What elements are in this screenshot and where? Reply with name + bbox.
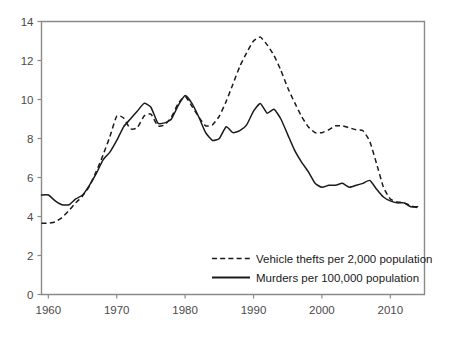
chart-legend: Vehicle thefts per 2,000 populationMurde…: [212, 253, 432, 284]
y-tick-label: 10: [21, 94, 34, 106]
line-chart: 02468101214 196019701980199020002010 Veh…: [0, 0, 450, 339]
y-tick-label: 12: [21, 55, 34, 67]
chart-figure: 02468101214 196019701980199020002010 Veh…: [0, 0, 450, 339]
y-tick-label: 14: [21, 16, 34, 28]
x-tick-label: 1960: [36, 304, 62, 316]
legend-label-vehicle-thefts: Vehicle thefts per 2,000 population: [256, 253, 432, 265]
y-tick-label: 2: [27, 250, 33, 262]
y-tick-label: 6: [27, 172, 33, 184]
x-tick-label: 1990: [241, 304, 267, 316]
x-tick-label: 1980: [172, 304, 198, 316]
x-axis-ticks: 196019701980199020002010: [36, 295, 404, 316]
chart-series: [42, 37, 418, 223]
x-tick-label: 1970: [104, 304, 130, 316]
y-tick-label: 4: [27, 211, 34, 223]
x-tick-label: 2010: [378, 304, 404, 316]
legend-label-murders: Murders per 100,000 population: [256, 272, 419, 284]
y-tick-label: 0: [27, 289, 33, 301]
y-tick-label: 8: [27, 133, 33, 145]
x-tick-label: 2000: [309, 304, 335, 316]
series-line-murders: [42, 96, 418, 207]
y-axis-ticks: 02468101214: [21, 16, 42, 301]
